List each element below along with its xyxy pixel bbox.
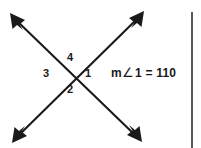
angle-symbol-icon: ∠ xyxy=(122,65,135,80)
annotation-angle-number: 1 xyxy=(135,66,142,80)
arrowhead-southeast xyxy=(127,125,142,142)
angle-label-2: 2 xyxy=(67,84,73,95)
equals-sign: = xyxy=(146,66,153,80)
angle-measure-annotation: m∠1 = 110 xyxy=(111,66,176,80)
measure-prefix: m xyxy=(111,66,122,80)
right-margin-rule xyxy=(191,12,193,148)
intersecting-lines-angle-diagram: 4 3 1 2 m∠1 = 110 xyxy=(0,0,201,148)
angle-label-3: 3 xyxy=(43,68,49,79)
annotation-value: 110 xyxy=(156,66,176,80)
angle-label-4: 4 xyxy=(67,52,73,63)
angle-label-1: 1 xyxy=(85,68,91,79)
